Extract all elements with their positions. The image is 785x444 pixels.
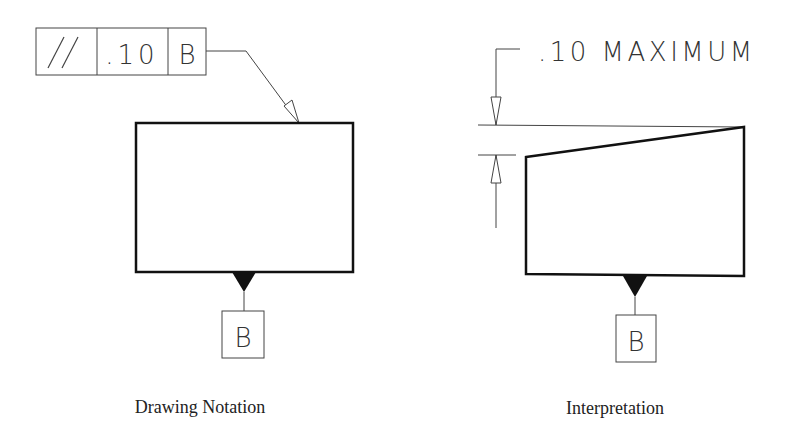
datum-triangle-icon [623,276,647,297]
feature-control-frame: .10 B [36,28,206,75]
datum-triangle-icon [232,272,256,292]
datum-label: B [234,323,251,353]
datum-feature-symbol: B [616,276,656,362]
datum-label: B [627,327,644,357]
leader-line [206,51,299,123]
caption-interpretation: Interpretation [566,398,664,418]
upper-extension-line [478,125,744,127]
tapered-part-outline [526,127,744,276]
datum-reference: B [178,40,195,70]
parallelism-icon [48,37,78,68]
tolerance-value: .10 [105,40,158,70]
drawing-notation-panel: .10 B B Drawing Notation [36,28,353,417]
part-outline [136,123,353,272]
leader-arrow-icon [284,100,299,123]
dimension-note: .10 MAXIMUM [538,37,756,67]
dimension-arrow-down-icon [491,97,501,125]
note-leader [496,49,520,125]
interpretation-panel: .10 MAXIMUM B Interpretation [478,37,756,418]
datum-feature-symbol: B [222,272,264,358]
dimension-arrow-up-icon [491,155,501,183]
caption-drawing-notation: Drawing Notation [135,397,265,417]
